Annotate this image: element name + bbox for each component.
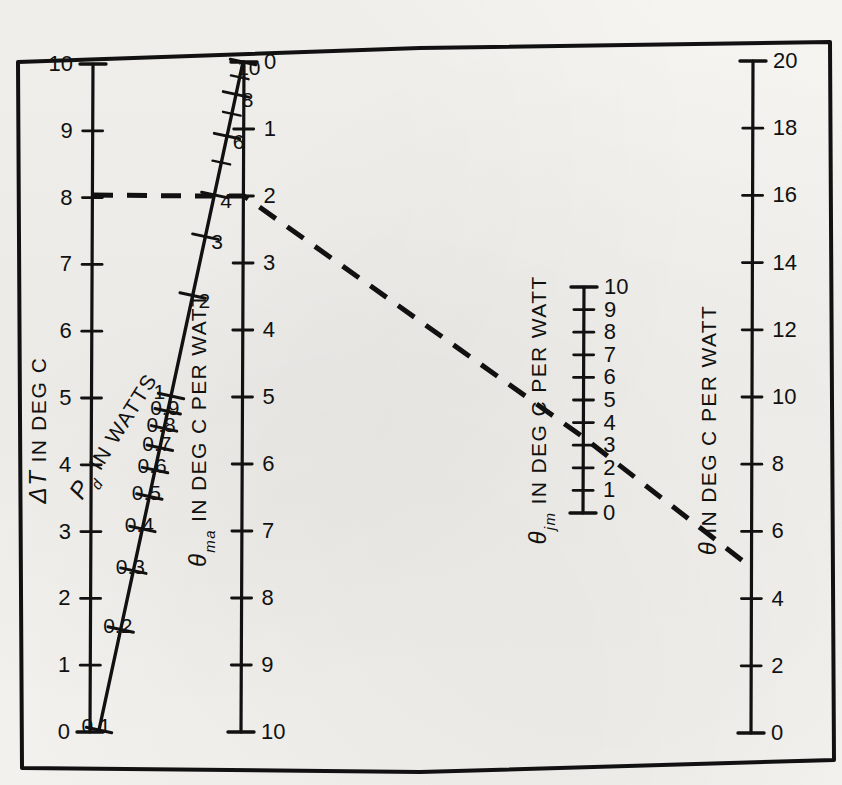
theta-ma-axis-tick-label: 8 (262, 585, 274, 610)
delta-t-axis-tick-label: 6 (60, 318, 72, 343)
delta-t-axis-tick-label: 3 (59, 519, 71, 544)
theta-jm-axis-tick-label: 10 (604, 274, 628, 299)
theta-axis-tick-label: 4 (771, 586, 783, 611)
theta-jm-axis-tick-label: 6 (604, 364, 616, 389)
pd-scale-tick-label: 10 (237, 56, 260, 79)
pd-scale-tick-label: 3 (211, 230, 223, 253)
theta-ma-axis-title: θmaIN DEG C PER WATT (184, 293, 218, 567)
theta-ma-axis-tick-label: 1 (264, 116, 276, 141)
theta-jm-axis-tick-label: 2 (603, 455, 615, 480)
theta-axis-title-rest: IN DEG C PER WATT (697, 305, 720, 534)
theta-axis-tick-label: 20 (773, 48, 797, 73)
theta-jm-axis-tick-label: 4 (603, 410, 615, 435)
theta-jm-axis-title-subscript: jm (541, 512, 558, 533)
delta-t-axis-tick-label: 9 (60, 118, 72, 143)
theta-axis-tick-label: 10 (772, 384, 796, 409)
theta-jm-axis-title-text: θjmIN DEG C PER WATT (524, 275, 558, 544)
pd-scale-tick-label: 0.1 (81, 714, 110, 737)
theta-ma-axis: 012345678910 (228, 49, 285, 744)
theta-jm-axis-tick-label: 1 (603, 477, 615, 502)
pd-scale-tick-label: 6 (233, 130, 245, 153)
delta-t-axis-title: ΔTIN DEG C (24, 356, 51, 504)
theta-ma-axis-tick-label: 2 (263, 183, 275, 208)
delta-t-axis-tick-label: 10 (49, 51, 73, 76)
theta-axis-tick-label: 12 (772, 317, 796, 342)
theta-ma-axis-tick-label: 0 (264, 49, 276, 74)
theta-ma-axis-title-symbol: θ (184, 553, 211, 567)
nomogram-canvas: 0123456789100123456789100123456789100246… (0, 0, 842, 785)
delta-t-axis-title-text: ΔTIN DEG C (24, 356, 51, 504)
theta-ma-axis-tick-label: 10 (261, 719, 285, 744)
theta-ma-axis-tick-label: 6 (262, 451, 274, 476)
theta-ma-axis-title-text: θmaIN DEG C PER WATT (184, 293, 218, 567)
theta-axis-tick-label: 18 (773, 115, 797, 140)
theta-ma-axis-tick-label: 5 (263, 384, 275, 409)
delta-t-axis-tick-label: 1 (58, 652, 70, 677)
delta-t-axis-tick-label: 4 (59, 452, 71, 477)
theta-jm-axis-title: θjmIN DEG C PER WATT (524, 275, 558, 544)
theta-jm-axis-tick-label: 9 (604, 297, 616, 322)
theta-jm-axis: 012345678910 (570, 274, 628, 525)
delta-t-axis-tick-label: 2 (58, 585, 70, 610)
delta-t-axis-title-rest: IN DEG C (27, 356, 50, 462)
pd-scale-tick-label: 0.2 (103, 614, 132, 637)
theta-axis-tick-label: 0 (771, 720, 783, 745)
theta-axis-tick-label: 6 (772, 518, 784, 543)
nomogram-figure: 0123456789100123456789100123456789100246… (0, 0, 842, 785)
delta-t-axis-title-symbol: ΔT (24, 469, 51, 505)
pd-scale-tick-label: 0.3 (116, 555, 145, 578)
pd-scale-tick-label: 4 (220, 189, 232, 212)
theta-axis-title-text: θIN DEG C PER WATT (694, 305, 721, 556)
theta-axis-tick-label: 2 (771, 653, 783, 678)
theta-axis-title: θIN DEG C PER WATT (694, 305, 721, 556)
theta-axis-tick-label: 8 (772, 451, 784, 476)
delta-t-axis-tick-label: 7 (60, 251, 72, 276)
theta-ma-axis-tick-label: 3 (263, 250, 275, 275)
delta-t-axis: 012345678910 (49, 51, 106, 744)
theta-jm-axis-tick-label: 5 (604, 387, 616, 412)
theta-axis-title-symbol: θ (694, 541, 721, 555)
theta-ma-axis-tick-label: 4 (263, 317, 275, 342)
theta-axis: 02468101214161820 (738, 48, 797, 745)
theta-axis-tick-label: 16 (773, 182, 797, 207)
theta-jm-axis-tick-label: 7 (604, 342, 616, 367)
pd-scale-tick-label: 0.5 (132, 481, 161, 504)
pd-scale-tick-label: 0.4 (125, 513, 155, 536)
theta-ma-axis-tick-label: 7 (262, 518, 274, 543)
theta-jm-axis-tick-label: 0 (603, 500, 615, 525)
theta-jm-axis-tick-label: 8 (604, 319, 616, 344)
theta-axis-tick-label: 14 (772, 250, 796, 275)
delta-t-axis-tick-label: 5 (59, 385, 71, 410)
theta-ma-axis-tick-label: 9 (261, 652, 273, 677)
delta-t-axis-tick-label: 8 (60, 185, 72, 210)
pd-scale-tick-label: 8 (242, 88, 254, 111)
delta-t-axis-tick-label: 0 (58, 719, 70, 744)
pd-scale-tick-label: 0.6 (138, 454, 167, 477)
theta-jm-axis-title-symbol: θ (524, 530, 551, 544)
theta-ma-axis-title-subscript: ma (201, 529, 218, 553)
theta-ma-axis-title-rest: IN DEG C PER WATT (187, 293, 210, 522)
theta-jm-axis-title-rest: IN DEG C PER WATT (527, 275, 550, 504)
